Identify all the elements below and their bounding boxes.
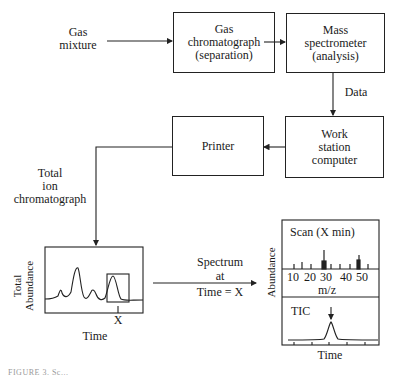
mz-tick: 40 xyxy=(340,271,352,284)
mz-tick: 50 xyxy=(356,271,368,284)
tic-xlabel: Time xyxy=(78,330,112,343)
scan-title: Scan (X min) xyxy=(290,226,362,239)
figure-caption: FIGURE 3. Sc... xyxy=(8,368,68,377)
zoom-window xyxy=(107,274,129,302)
mz-tick: 20 xyxy=(304,271,316,284)
spectrum-ylabel: Abundance xyxy=(265,238,278,308)
tic-ylabel-line-1: Total xyxy=(11,251,23,321)
arrow-printer-to-tic xyxy=(96,147,172,245)
tic-trace xyxy=(45,268,143,300)
diagram-graphics xyxy=(0,0,406,379)
tic-trace-small xyxy=(288,322,378,340)
tic-title: TIC xyxy=(291,305,321,318)
tic-ylabel: Total Abundance xyxy=(11,251,35,321)
tic-plot xyxy=(45,247,143,313)
mz-peaks xyxy=(294,250,368,269)
tic-ylabel-line-2: Abundance xyxy=(23,251,35,321)
tic-frame xyxy=(45,247,143,313)
spectrum-time-label: Time xyxy=(312,349,348,362)
mz-label: m/z xyxy=(312,284,342,297)
mz-tick: 10 xyxy=(287,271,299,284)
tic-marker-label: X xyxy=(108,314,128,327)
